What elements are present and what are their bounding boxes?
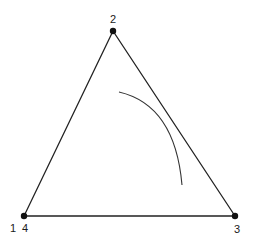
- vertex-label-2: 2: [110, 14, 116, 25]
- triangle-diagram: [0, 0, 258, 242]
- triangle-outline: [24, 31, 235, 216]
- vertex-dot-1-4: [21, 213, 27, 219]
- vertex-dot-2: [110, 28, 116, 34]
- vertex-label-4: 4: [22, 223, 28, 234]
- curved-arc: [119, 92, 182, 185]
- vertex-label-3: 3: [234, 224, 240, 235]
- vertex-dot-3: [232, 213, 238, 219]
- vertex-label-1: 1: [10, 223, 16, 234]
